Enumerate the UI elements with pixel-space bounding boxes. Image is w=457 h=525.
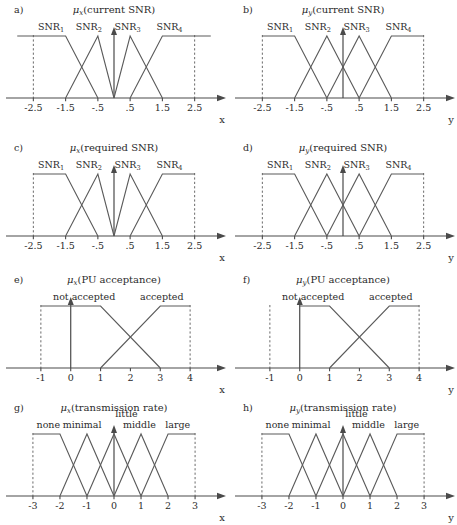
plot-b: SNR1SNR2SNR3SNR4-2.5-1.5-.5.51.52.5y [229, 14, 457, 126]
fuzzy-set-name: SNR [76, 159, 99, 170]
fuzzy-set-subscript: 1 [60, 164, 64, 172]
panel-h: h)μy(transmission rate)noneminimallittle… [229, 398, 457, 525]
membership-curve [343, 434, 397, 496]
membership-curve [66, 174, 114, 236]
x-axis-tick-label: 2 [356, 372, 362, 383]
x-axis-arrow-icon [446, 233, 455, 239]
x-axis-label: x [219, 512, 225, 523]
fuzzy-set-label: middle [123, 419, 156, 430]
x-axis-tick-label: 1.5 [155, 240, 170, 251]
fuzzy-set-label: SNR1 [267, 21, 293, 34]
fuzzy-set-label: SNR2 [76, 159, 102, 172]
membership-curve [17, 36, 98, 98]
x-axis-tick-label: -1.5 [56, 102, 74, 113]
x-axis-tick-label: 0 [340, 500, 346, 511]
fuzzy-set-name: SNR [343, 159, 366, 170]
fuzzy-set-name: SNR [156, 21, 179, 32]
fuzzy-set-name: SNR [114, 21, 137, 32]
fuzzy-set-name: SNR [267, 159, 290, 170]
x-axis-tick-label: 4 [187, 372, 193, 383]
fuzzy-set-label: none [266, 419, 290, 430]
fuzzy-set-name: SNR [343, 21, 366, 32]
membership-curve [114, 36, 162, 98]
x-axis-tick-label: -2 [55, 500, 64, 511]
fuzzy-set-name: middle [123, 419, 156, 430]
x-axis-tick-label: 1 [367, 500, 373, 511]
figure-grid: a)μx(current SNR)SNR1SNR2SNR3SNR4-2.5-1.… [0, 0, 457, 525]
x-axis-tick-label: -3 [28, 500, 37, 511]
fuzzy-set-name: accepted [369, 291, 413, 302]
x-axis-tick-label: 3 [421, 500, 427, 511]
x-axis-label: y [447, 114, 454, 125]
fuzzy-set-label: SNR3 [343, 159, 369, 172]
x-axis-label: x [219, 252, 225, 263]
x-axis-tick-label: 0 [111, 500, 117, 511]
fuzzy-set-label: little [345, 408, 368, 419]
fuzzy-set-name: large [165, 419, 190, 430]
membership-curve [114, 434, 168, 496]
membership-curve [114, 174, 162, 236]
membership-curve [295, 36, 360, 98]
fuzzy-set-label: large [394, 419, 419, 430]
membership-curve [370, 434, 424, 496]
x-axis-tick-label: -1 [36, 372, 45, 383]
fuzzy-set-subscript: 3 [136, 164, 140, 172]
x-axis-tick-label: -1 [82, 500, 91, 511]
fuzzy-set-name: minimal [63, 419, 102, 430]
membership-curve [262, 434, 316, 496]
x-axis-tick-label: 1.5 [155, 102, 170, 113]
membership-curve [33, 434, 87, 496]
x-axis-arrow-icon [217, 95, 226, 101]
plot-g: noneminimallittlemiddlelarge-3-2-10123x [0, 412, 228, 524]
fuzzy-set-subscript: 1 [289, 26, 293, 34]
x-axis-tick-label: 1.5 [384, 240, 399, 251]
fuzzy-set-name: SNR [385, 21, 408, 32]
fuzzy-set-subscript: 3 [365, 164, 369, 172]
x-axis-label: y [447, 512, 454, 523]
x-axis-tick-label: .5 [126, 240, 135, 251]
fuzzy-set-subscript: 3 [365, 26, 369, 34]
membership-curve [41, 306, 160, 368]
plot-a: SNR1SNR2SNR3SNR4-2.5-1.5-.5.51.52.5x [0, 14, 228, 126]
fuzzy-set-name: SNR [38, 21, 61, 32]
x-axis-tick-label: -2.5 [253, 240, 271, 251]
x-axis-tick-label: -.5 [321, 102, 333, 113]
membership-curve [300, 306, 390, 368]
fuzzy-set-label: minimal [63, 419, 102, 430]
fuzzy-set-name: not accepted [53, 291, 115, 302]
fuzzy-set-name: accepted [140, 291, 184, 302]
membership-curve [66, 36, 114, 98]
fuzzy-set-label: SNR1 [38, 159, 64, 172]
panel-a: a)μx(current SNR)SNR1SNR2SNR3SNR4-2.5-1.… [0, 0, 228, 131]
fuzzy-set-label: SNR2 [305, 21, 331, 34]
x-axis-tick-label: 1.5 [384, 102, 399, 113]
fuzzy-set-subscript: 4 [178, 164, 182, 172]
fuzzy-set-label: accepted [140, 291, 184, 302]
fuzzy-set-name: middle [352, 419, 385, 430]
x-axis-arrow-icon [217, 233, 226, 239]
fuzzy-set-label: not accepted [53, 291, 115, 302]
x-axis-tick-label: 2.5 [416, 102, 431, 113]
x-axis-tick-label: 0 [297, 372, 303, 383]
fuzzy-set-subscript: 4 [407, 164, 411, 172]
fuzzy-set-subscript: 4 [178, 26, 182, 34]
panel-c: c)μx(required SNR)SNR1SNR2SNR3SNR4-2.5-1… [0, 138, 228, 269]
fuzzy-set-subscript: 4 [407, 26, 411, 34]
fuzzy-set-label: middle [352, 419, 385, 430]
membership-curve [101, 306, 191, 368]
x-axis-tick-label: -1 [265, 372, 274, 383]
fuzzy-set-label: minimal [292, 419, 331, 430]
fuzzy-set-label: none [37, 419, 61, 430]
membership-curve [330, 306, 420, 368]
plot-h: noneminimallittlemiddlelarge-3-2-10123y [229, 412, 457, 524]
fuzzy-set-name: none [266, 419, 290, 430]
fuzzy-set-name: SNR [267, 21, 290, 32]
x-axis-tick-label: -1.5 [285, 240, 303, 251]
plot-d: SNR1SNR2SNR3SNR4-2.5-1.5-.5.51.52.5y [229, 152, 457, 264]
fuzzy-set-label: SNR2 [76, 21, 102, 34]
membership-curve [141, 434, 195, 496]
y-axis-arrow-icon [340, 425, 346, 433]
x-axis-tick-label: -2.5 [253, 102, 271, 113]
x-axis-arrow-icon [446, 493, 455, 499]
fuzzy-set-label: SNR3 [114, 159, 140, 172]
